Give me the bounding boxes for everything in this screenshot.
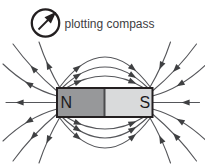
- magnet-south-label: S: [140, 94, 151, 111]
- compass-legend: plotting compass: [32, 9, 155, 37]
- field-arrow-icon: [128, 124, 138, 133]
- field-arrow-icon: [44, 60, 53, 70]
- field-arrow-icon: [73, 125, 83, 134]
- field-arrow-icon: [73, 71, 83, 80]
- field-line-right-up-mid: [153, 44, 197, 91]
- legend-label: plotting compass: [65, 17, 155, 31]
- field-arrow-icon: [128, 78, 138, 87]
- diagram-canvas: N S plotting compass: [0, 0, 205, 165]
- field-arrow-icon: [15, 100, 23, 106]
- bar-magnet-field-diagram: N S plotting compass: [0, 0, 205, 165]
- magnet-north-label: N: [61, 94, 73, 111]
- field-line-bottom-arc-outer: [59, 117, 151, 148]
- field-arrow-icon: [182, 100, 190, 106]
- field-arrow-icon: [157, 61, 166, 71]
- field-arrow-icon: [74, 77, 84, 86]
- field-arrow-icon: [128, 119, 138, 128]
- field-arrow-icon: [24, 117, 34, 126]
- field-arrow-icon: [73, 119, 83, 128]
- field-line-top-arc-outer: [59, 57, 151, 88]
- field-arrow-icon: [128, 71, 138, 80]
- bar-magnet: N S: [57, 88, 153, 117]
- field-arrow-icon: [44, 135, 53, 145]
- field-line-right-down-mid: [153, 114, 197, 161]
- field-arrow-icon: [175, 80, 185, 89]
- field-arrow-icon: [157, 134, 166, 144]
- field-arrow-icon: [24, 79, 34, 88]
- field-arrow-icon: [175, 116, 185, 125]
